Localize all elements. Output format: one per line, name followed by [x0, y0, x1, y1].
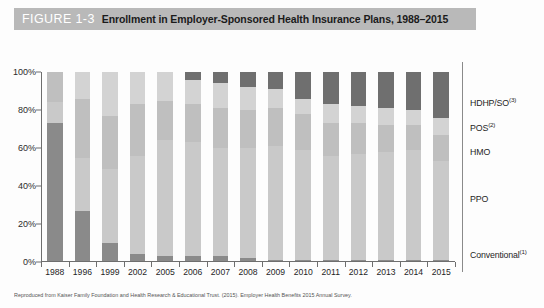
figure-container: FIGURE 1-3 Enrollment in Employer-Sponso… — [0, 0, 544, 308]
x-axis-tick-label: 2011 — [322, 267, 340, 277]
x-axis-tick-label: 2010 — [294, 267, 313, 277]
legend-item-label: HMO — [470, 147, 490, 157]
x-axis-tick-label: 1988 — [45, 267, 64, 277]
x-axis-tick-label: 2013 — [376, 267, 395, 277]
chart-legend: HDHP/SO(3)POS(2)HMOPPOConventional(1) — [470, 0, 544, 308]
x-axis-tick-label: 1996 — [73, 267, 92, 277]
x-axis-tick-label: 2005 — [156, 267, 175, 277]
x-axis-tick-label: 2009 — [266, 267, 285, 277]
source-note: Reproduced from Kaiser Family Foundation… — [14, 292, 484, 306]
legend-item-ppo: PPO — [470, 194, 488, 204]
legend-item-label: PPO — [470, 194, 488, 204]
x-axis-tick-label: 2006 — [183, 267, 202, 277]
legend-item-pos: POS(2) — [470, 121, 495, 133]
legend-item-footnote-marker: (1) — [520, 248, 527, 255]
x-axis-tick-label: 1999 — [100, 267, 119, 277]
figure-title: Enrollment in Employer-Sponsored Health … — [102, 13, 448, 25]
x-axis-tick-label: 2014 — [404, 267, 423, 277]
legend-item-hdhpso: HDHP/SO(3) — [470, 96, 516, 108]
y-axis-ticks — [0, 72, 41, 262]
legend-item-footnote-marker: (3) — [509, 96, 516, 103]
x-axis-tick-label: 2007 — [211, 267, 230, 277]
legend-item-label: Conventional — [470, 250, 520, 260]
x-axis-tick-label: 2015 — [432, 267, 451, 277]
x-axis-tick-mark — [455, 262, 456, 267]
legend-item-conventional: Conventional(1) — [470, 248, 527, 260]
legend-item-label: POS — [470, 123, 488, 133]
legend-item-footnote-marker: (2) — [488, 121, 495, 128]
legend-divider — [462, 62, 463, 272]
plot-frame — [41, 72, 455, 262]
x-axis-labels: 1988199619992002200520062007200820092010… — [41, 267, 455, 283]
legend-item-hmo: HMO — [470, 147, 490, 157]
figure-number: FIGURE 1-3 — [22, 12, 95, 26]
x-axis-tick-label: 2008 — [238, 267, 257, 277]
x-axis-tick-label: 2012 — [349, 267, 368, 277]
figure-header: FIGURE 1-3 Enrollment in Employer-Sponso… — [14, 8, 476, 30]
legend-item-label: HDHP/SO — [470, 98, 509, 108]
x-axis-tick-label: 2002 — [128, 267, 147, 277]
